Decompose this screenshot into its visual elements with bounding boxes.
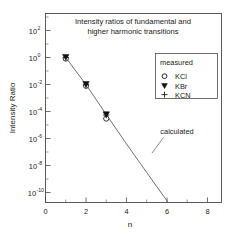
y-axis-label: Intensity Ratio: [8, 82, 17, 133]
x-tick-label: 0: [43, 207, 47, 216]
svg-text:0: 0: [38, 52, 41, 58]
svg-text:10: 10: [29, 162, 37, 171]
svg-text:10: 10: [29, 27, 37, 36]
svg-text:-6: -6: [38, 133, 43, 139]
svg-text:-2: -2: [38, 79, 43, 85]
legend-marker-open-circle-icon: [162, 74, 167, 79]
calculated-annotation-label: calculated: [160, 127, 193, 136]
svg-text:2: 2: [38, 25, 41, 31]
svg-text:-4: -4: [38, 106, 43, 112]
svg-text:10: 10: [29, 108, 37, 117]
svg-text:10: 10: [28, 189, 36, 198]
legend-label-kcn: KCN: [175, 91, 191, 100]
x-tick-label: 8: [205, 207, 209, 216]
svg-text:-8: -8: [38, 160, 43, 166]
x-tick-label: 2: [84, 207, 88, 216]
data-point-group-n2: [83, 82, 90, 89]
legend-label-kcl: KCl: [175, 72, 187, 81]
legend-header: measured: [160, 58, 193, 67]
svg-text:10: 10: [29, 135, 37, 144]
data-point-group-n1: [63, 54, 70, 61]
chart-title-line2: higher harmonic transitions: [87, 27, 178, 36]
x-axis-label: n: [128, 220, 132, 229]
svg-text:-10: -10: [37, 187, 45, 193]
intensity-ratio-chart: Intensity ratios of fundamental and high…: [0, 0, 243, 243]
svg-text:10: 10: [29, 54, 37, 63]
legend-label-kbr: KBr: [175, 82, 188, 91]
chart-title-line1: Intensity ratios of fundamental and: [75, 17, 191, 26]
chart-title: Intensity ratios of fundamental and high…: [75, 17, 191, 36]
legend: measured KCl KBr KCN: [156, 54, 218, 100]
chart-figure: Intensity ratios of fundamental and high…: [0, 0, 243, 243]
x-tick-label: 6: [165, 207, 169, 216]
x-tick-label: 4: [124, 207, 128, 216]
svg-text:10: 10: [29, 81, 37, 90]
